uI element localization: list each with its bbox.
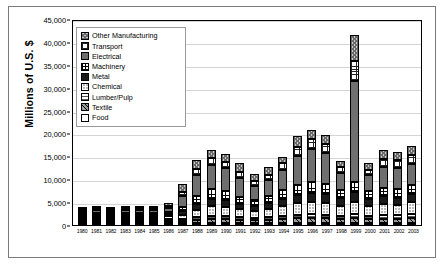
bar-1983[interactable] — [121, 206, 130, 225]
bar-1988[interactable] — [192, 160, 201, 225]
legend-label: Electrical — [92, 53, 121, 60]
segment-machinery — [264, 196, 273, 203]
segment-machinery — [293, 185, 302, 195]
x-tick-label: 1990 — [221, 228, 230, 244]
segment-transport — [207, 158, 216, 165]
x-axis-labels: 1980198119821983198419851986198719881989… — [72, 228, 422, 244]
segment-machinery — [235, 197, 244, 204]
bar-1985[interactable] — [149, 206, 158, 225]
segment-chemical — [321, 203, 330, 214]
segment-chemical — [221, 207, 230, 216]
bar-1989[interactable] — [207, 150, 216, 225]
x-tick-label: 2003 — [408, 228, 417, 244]
segment-chemical — [407, 202, 416, 214]
x-tick-label: 1999 — [350, 228, 359, 244]
segment-food — [221, 223, 230, 225]
legend-item-transport[interactable]: Transport — [81, 41, 181, 51]
legend-swatch-icon — [81, 42, 89, 50]
segment-food — [278, 223, 287, 225]
segment-other-manufacturing — [221, 154, 230, 162]
chart-legend: Other ManufacturingTransportElectricalMa… — [76, 27, 186, 127]
y-axis-ticks: 05,00010,00015,00020,00025,00030,00035,0… — [0, 20, 70, 226]
legend-item-metal[interactable]: Metal — [81, 72, 181, 82]
y-tick-label: 30,000 — [43, 84, 66, 93]
legend-swatch-icon — [81, 103, 89, 111]
segment-other-manufacturing — [407, 146, 416, 155]
bar-1986[interactable] — [164, 203, 173, 225]
segment-electrical — [235, 178, 244, 197]
legend-item-lumber-pulp[interactable]: Lumber/Pulp — [81, 92, 181, 102]
x-tick-label: 1984 — [134, 228, 143, 244]
bar-2002[interactable] — [393, 152, 402, 225]
legend-swatch-icon — [81, 83, 89, 91]
bar-1980[interactable] — [78, 207, 87, 225]
x-tick-label: 1995 — [293, 228, 302, 244]
bar-1999[interactable] — [350, 35, 359, 225]
y-tick-mark — [67, 65, 70, 66]
bar-1984[interactable] — [135, 206, 144, 225]
y-tick-label: 45,000 — [43, 16, 66, 25]
bar-1992[interactable] — [250, 174, 259, 225]
y-tick-mark — [67, 88, 70, 89]
bar-1981[interactable] — [92, 206, 101, 225]
legend-swatch-icon — [81, 32, 89, 40]
segment-chemical — [264, 209, 273, 217]
segment-chemical — [192, 210, 201, 217]
legend-item-chemical[interactable]: Chemical — [81, 82, 181, 92]
bar-1987[interactable] — [178, 184, 187, 225]
legend-item-other-manufacturing[interactable]: Other Manufacturing — [81, 31, 181, 41]
segment-other-manufacturing — [250, 174, 259, 181]
x-tick-label: 1997 — [322, 228, 331, 244]
segment-other-manufacturing — [393, 152, 402, 160]
bar-1994[interactable] — [278, 157, 287, 225]
legend-item-electrical[interactable]: Electrical — [81, 51, 181, 61]
bar-1993[interactable] — [264, 167, 273, 225]
segment-machinery — [407, 185, 416, 195]
y-tick-label: 0 — [62, 222, 66, 231]
segment-food — [235, 223, 244, 225]
x-tick-label: 1996 — [307, 228, 316, 244]
segment-food — [321, 223, 330, 225]
bar-1995[interactable] — [293, 136, 302, 225]
segment-transport — [293, 147, 302, 156]
x-tick-label: 1989 — [206, 228, 215, 244]
segment-metal — [393, 198, 402, 205]
bar-2001[interactable] — [379, 150, 388, 225]
bar-1991[interactable] — [235, 163, 244, 225]
legend-label: Other Manufacturing — [92, 32, 158, 39]
segment-chemical — [307, 202, 316, 214]
bar-1990[interactable] — [221, 154, 230, 225]
y-tick-mark — [67, 226, 70, 227]
segment-machinery — [379, 188, 388, 197]
bar-2003[interactable] — [407, 146, 416, 225]
segment-chemical — [235, 209, 244, 217]
segment-electrical — [364, 175, 373, 191]
bar-2000[interactable] — [364, 163, 373, 225]
legend-item-textile[interactable]: Textile — [81, 102, 181, 112]
bar-1996[interactable] — [307, 130, 316, 225]
segment-electrical — [321, 153, 330, 184]
segment-chemical — [207, 206, 216, 216]
segment-food — [350, 223, 359, 225]
y-tick-mark — [67, 20, 70, 21]
segment-food — [264, 223, 273, 225]
segment-food — [393, 223, 402, 225]
bar-1998[interactable] — [336, 161, 345, 225]
y-tick-mark — [67, 203, 70, 204]
legend-label: Lumber/Pulp — [92, 94, 133, 101]
bar-1997[interactable] — [321, 135, 330, 225]
segment-metal — [321, 194, 330, 203]
legend-item-machinery[interactable]: Machinery — [81, 62, 181, 72]
bar-1982[interactable] — [106, 207, 115, 225]
segment-transport — [379, 159, 388, 166]
segment-electrical — [192, 175, 201, 196]
segment-metal — [293, 195, 302, 204]
legend-swatch-icon — [81, 93, 89, 101]
legend-item-food[interactable]: Food — [81, 113, 181, 123]
segment-metal — [350, 192, 359, 201]
segment-machinery — [336, 190, 345, 198]
y-tick-label: 10,000 — [43, 176, 66, 185]
segment-metal — [207, 199, 216, 206]
segment-machinery — [278, 190, 287, 199]
x-tick-label: 1986 — [163, 228, 172, 244]
